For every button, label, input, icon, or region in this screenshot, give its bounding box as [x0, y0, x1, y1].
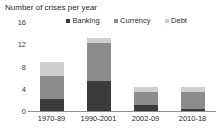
stacked-bar[interactable] [87, 38, 111, 111]
x-axis-tick-label: 2010-18 [169, 114, 216, 123]
x-axis-tick-label: 2002-09 [122, 114, 169, 123]
y-axis-tick-label: 4 [4, 84, 26, 93]
x-axis-labels: 1970-891990-20012002-092010-18 [28, 114, 216, 123]
bar-segment-currency[interactable] [134, 92, 158, 105]
bar-segment-banking[interactable] [87, 81, 111, 111]
x-axis-tick-label: 1990-2001 [75, 114, 122, 123]
bar-slot [122, 22, 169, 111]
bar-segment-debt[interactable] [40, 62, 64, 76]
x-axis-line [28, 111, 216, 112]
bar-segment-currency[interactable] [181, 92, 205, 109]
stacked-bar[interactable] [134, 87, 158, 111]
y-axis-tick-label: 0 [4, 107, 26, 116]
bar-group [28, 22, 216, 111]
bar-slot [169, 22, 216, 111]
x-axis-tick-label: 1970-89 [28, 114, 75, 123]
plot-area [28, 22, 216, 111]
bar-segment-banking[interactable] [40, 99, 64, 111]
y-axis-tick-label: 16 [4, 18, 26, 27]
bar-segment-currency[interactable] [87, 43, 111, 81]
bar-slot [28, 22, 75, 111]
y-axis-tick-label: 12 [4, 40, 26, 49]
stacked-bar[interactable] [40, 62, 64, 111]
chart-container: Number of crises per year Banking Curren… [0, 0, 220, 129]
stacked-bar[interactable] [181, 87, 205, 111]
bar-slot [75, 22, 122, 111]
y-axis-ticks: 1612840 [0, 0, 26, 129]
y-axis-tick-label: 8 [4, 62, 26, 71]
bar-segment-currency[interactable] [40, 76, 64, 99]
